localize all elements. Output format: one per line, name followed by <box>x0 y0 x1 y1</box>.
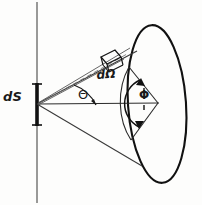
central-axis-ray <box>37 103 159 104</box>
surface-element-label: dS <box>3 90 22 103</box>
polar-angle-label: Θ <box>78 88 88 101</box>
theta-arrow-head <box>91 99 96 105</box>
solid-angle-diagram: dS dΩ Θ Φ <box>0 0 202 205</box>
azimuthal-angle-label: Φ <box>139 89 149 101</box>
diagram-canvas <box>0 0 202 205</box>
solid-angle-label: dΩ <box>96 68 116 81</box>
